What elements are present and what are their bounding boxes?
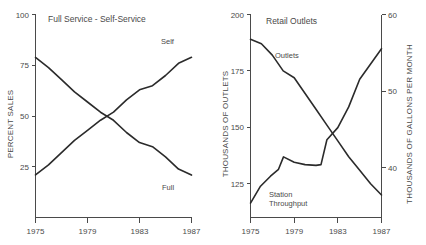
chart-panel-retail-outlets: 200 175 150 125 60 50 40 1975 1979 1983 [207, 0, 426, 245]
left-x-tick-label-1979: 1979 [79, 227, 97, 236]
left-series-label-full: Full [162, 183, 174, 192]
right-y-tick-label-175: 175 [231, 67, 245, 76]
right-y-axis-title: THOUSANDS OF OUTLETS [221, 71, 230, 178]
left-x-tick-label-1983: 1983 [131, 227, 149, 236]
left-panel-title: Full Service - Self-Service [48, 14, 146, 24]
left-y-tick-label-75: 75 [20, 61, 29, 70]
right-series-label-station-throughput-line2: Throughput [269, 199, 308, 208]
right-y2-tick-label-40: 40 [388, 164, 397, 173]
left-series-label-self: Self [161, 37, 175, 46]
right-y2-axis-title: THOUSANDS OF GALLONS PER MONTH [405, 44, 414, 204]
figure-container: 100 75 50 25 1975 1979 1983 1987 PERCENT… [0, 0, 426, 245]
right-x-tick-label-1983: 1983 [329, 227, 347, 236]
right-panel-title: Retail Outlets [266, 16, 317, 26]
left-series-line-full [36, 57, 192, 175]
right-series-line-outlets [251, 39, 382, 195]
chart-panel-full-service: 100 75 50 25 1975 1979 1983 1987 PERCENT… [0, 0, 207, 245]
left-chart-svg: 100 75 50 25 1975 1979 1983 1987 PERCENT… [0, 0, 207, 245]
right-x-tick-label-1979: 1979 [285, 227, 303, 236]
left-series-line-self [36, 57, 192, 175]
right-x-tick-label-1975: 1975 [242, 227, 260, 236]
right-x-tick-label-1987: 1987 [373, 227, 391, 236]
left-y-axis-title: PERCENT SALES [6, 90, 15, 159]
right-series-label-station-throughput-line1: Station [269, 190, 292, 199]
right-y-ticks [247, 15, 251, 184]
right-y2-tick-label-60: 60 [388, 11, 397, 20]
left-x-tick-label-1975: 1975 [27, 227, 45, 236]
right-y2-ticks [382, 15, 386, 168]
right-series-line-station-throughput [251, 49, 382, 203]
right-x-ticks [251, 218, 382, 223]
left-x-tick-label-1987: 1987 [183, 227, 201, 236]
right-chart-svg: 200 175 150 125 60 50 40 1975 1979 1983 [207, 0, 426, 245]
right-y2-tick-label-50: 50 [388, 87, 397, 96]
left-y-ticks [32, 15, 36, 167]
left-y-tick-label-25: 25 [20, 163, 29, 172]
right-y-tick-label-125: 125 [231, 180, 245, 189]
left-y-tick-label-100: 100 [16, 11, 30, 20]
left-y-tick-label-50: 50 [20, 112, 29, 121]
right-y-tick-label-150: 150 [231, 123, 245, 132]
left-x-ticks [36, 218, 192, 223]
right-axis-lines [251, 15, 382, 218]
right-series-label-outlets: Outlets [275, 51, 299, 60]
right-y-tick-label-200: 200 [231, 11, 245, 20]
